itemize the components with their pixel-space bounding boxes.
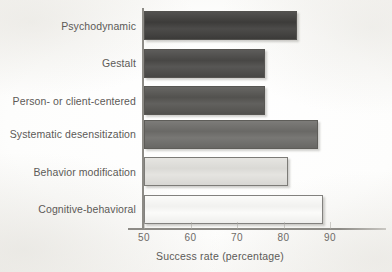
bar-row: Cognitive-behavioral (0, 195, 392, 224)
x-axis-tick-label: 80 (278, 232, 290, 243)
bar-category-label: Systematic desensitization (10, 128, 136, 140)
plot-area: PsychodynamicGestaltPerson- or client-ce… (0, 0, 392, 272)
x-axis-title: Success rate (percentage) (0, 250, 392, 262)
x-axis-tick-label: 70 (231, 232, 243, 243)
bar (144, 49, 265, 78)
x-axis-tick-label: 60 (185, 232, 197, 243)
bar-row: Gestalt (0, 49, 392, 78)
x-axis-title-label: Success rate (percentage) (156, 250, 284, 262)
x-axis-tick-label: 50 (138, 232, 150, 243)
bar-track (144, 195, 323, 224)
x-axis-tick-mark (144, 222, 145, 229)
bar-row: Behavior modification (0, 157, 392, 186)
bar (144, 11, 297, 40)
x-axis-tick-mark (284, 222, 285, 229)
bar (144, 195, 323, 224)
bar-category-label: Gestalt (102, 57, 136, 69)
bar-track (144, 157, 288, 186)
x-axis-tick-mark (191, 222, 192, 229)
bar-category-label: Person- or client-centered (13, 95, 136, 107)
x-axis-tick-label: 90 (324, 232, 336, 243)
x-axis-line (128, 228, 386, 230)
bar-track (144, 120, 318, 149)
bar-row: Person- or client-centered (0, 86, 392, 115)
bar-track (144, 49, 265, 78)
bar (144, 157, 288, 186)
bar-row: Psychodynamic (0, 11, 392, 40)
bar-category-label: Behavior modification (34, 166, 137, 178)
bar (144, 86, 265, 115)
bar-track (144, 11, 297, 40)
bar-category-label: Psychodynamic (61, 20, 136, 32)
x-axis-tick-mark (330, 222, 331, 229)
bar-track (144, 86, 265, 115)
bar (144, 120, 318, 149)
bar-category-label: Cognitive-behavioral (38, 203, 136, 215)
bar-row: Systematic desensitization (0, 120, 392, 149)
bar-chart-figure: PsychodynamicGestaltPerson- or client-ce… (0, 0, 392, 272)
x-axis-tick-mark (237, 222, 238, 229)
